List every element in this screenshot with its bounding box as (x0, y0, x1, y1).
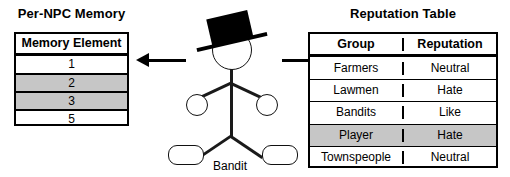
reputation-group-townspeople: Townspeople (310, 151, 404, 164)
npc-stick-figure: Bandit (160, 4, 300, 177)
figure-hand-left (186, 94, 208, 116)
reputation-group-bandits: Bandits (310, 106, 404, 119)
memory-row-2: 2 (16, 73, 127, 91)
figure-foot-right (262, 145, 298, 165)
reputation-row-lawmen: Lawmen Hate (310, 79, 496, 101)
reputation-table: Group Reputation Farmers Neutral Lawmen … (308, 32, 498, 168)
memory-value-1: 1 (16, 58, 127, 71)
memory-panel-title: Per-NPC Memory (14, 6, 129, 21)
memory-row-4: 5 (16, 109, 127, 127)
reputation-row-player: Player Hate (310, 124, 496, 146)
memory-value-3: 3 (16, 95, 127, 108)
reputation-value-lawmen: Hate (404, 84, 496, 97)
memory-table-header-row: Memory Element (16, 34, 127, 55)
memory-table: Memory Element 1 2 3 5 (14, 32, 129, 126)
figure-torso (230, 67, 233, 137)
memory-row-3: 3 (16, 91, 127, 109)
reputation-table-header-row: Group Reputation (310, 34, 496, 56)
figure-hand-right (256, 94, 278, 116)
reputation-value-bandits: Like (404, 106, 496, 119)
reputation-panel-title: Reputation Table (308, 6, 498, 21)
memory-table-header-cell: Memory Element (16, 37, 127, 50)
diagram-canvas: Per-NPC Memory Memory Element 1 2 3 5 (0, 0, 510, 177)
reputation-header-reputation: Reputation (404, 38, 496, 51)
reputation-row-farmers: Farmers Neutral (310, 56, 496, 78)
reputation-value-player: Hate (404, 129, 496, 142)
reputation-value-townspeople: Neutral (404, 151, 496, 164)
figure-leg-right (230, 135, 263, 158)
reputation-header-group: Group (310, 38, 404, 51)
reputation-group-farmers: Farmers (310, 62, 404, 75)
memory-value-4: 5 (16, 113, 127, 126)
reputation-group-player: Player (310, 129, 404, 142)
memory-value-2: 2 (16, 77, 127, 90)
memory-row-1: 1 (16, 55, 127, 73)
reputation-group-lawmen: Lawmen (310, 84, 404, 97)
reputation-value-farmers: Neutral (404, 62, 496, 75)
reputation-row-bandits: Bandits Like (310, 101, 496, 123)
reputation-row-townspeople: Townspeople Neutral (310, 146, 496, 168)
figure-foot-left (168, 145, 204, 165)
